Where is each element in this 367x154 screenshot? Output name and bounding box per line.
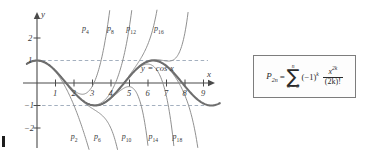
polynomial-label-p12: p12 [126, 25, 136, 35]
polynomial-label-p16: p16 [154, 25, 164, 35]
y-tick-label-2: 2 [28, 34, 32, 43]
fraction-term: x2k (2k)! [323, 66, 343, 86]
y-tick-label-1: 1 [28, 56, 32, 65]
polynomial-curve-p4 [27, 11, 110, 95]
y-axis-arrowhead-icon [34, 12, 40, 19]
summation-lower-limit: k = 0 [287, 84, 299, 90]
formula-equals: = [280, 72, 285, 82]
x-axis-name-label: x [207, 70, 211, 79]
fraction-numerator: x2k [326, 66, 339, 76]
polynomial-label-p6: p6 [94, 133, 101, 143]
y-tick-label-neg2: −2 [24, 124, 34, 133]
polynomial-label-p2: p2 [71, 133, 78, 143]
polynomial-label-p18: p18 [173, 133, 183, 143]
alternating-sign-term: (−1)k [302, 71, 319, 82]
figure-container: 12345678921−1−2xyy = cos xp4p8p12p16p2p6… [0, 0, 367, 154]
x-tick-label-7: 7 [164, 89, 168, 98]
axes-group [23, 12, 215, 148]
formula-box: P2n = n ∑ k = 0 (−1)k x2k (2k)! [253, 55, 356, 98]
x-tick-label-3: 3 [90, 89, 94, 98]
formula-lhs: P2n [266, 71, 278, 83]
polynomial-label-p14: p14 [149, 133, 159, 143]
x-tick-label-4: 4 [109, 89, 113, 98]
x-tick-label-5: 5 [127, 89, 131, 98]
polynomial-curve-p8 [27, 11, 132, 105]
x-tick-label-9: 9 [201, 89, 205, 98]
polynomial-label-p8: p8 [107, 25, 114, 35]
cosine-curve-annotation: y = cos x [141, 64, 174, 73]
x-tick-label-8: 8 [183, 89, 187, 98]
taylor-approximation-plot [0, 0, 230, 154]
fraction-denominator: (2k)! [323, 78, 343, 86]
x-tick-label-6: 6 [146, 89, 150, 98]
y-axis-name-label: y [41, 10, 45, 19]
polynomial-label-p10: p10 [122, 133, 132, 143]
summation-symbol-group: n ∑ k = 0 [287, 64, 300, 89]
x-tick-label-2: 2 [72, 89, 76, 98]
page-corner-mark [2, 136, 5, 147]
polynomial-label-p4: p4 [82, 25, 89, 35]
x-tick-label-1: 1 [53, 89, 57, 98]
x-axis-arrowhead-icon [208, 80, 215, 86]
formula-expression: P2n = n ∑ k = 0 (−1)k x2k (2k)! [254, 56, 355, 97]
y-tick-label-neg1: −1 [24, 101, 34, 110]
